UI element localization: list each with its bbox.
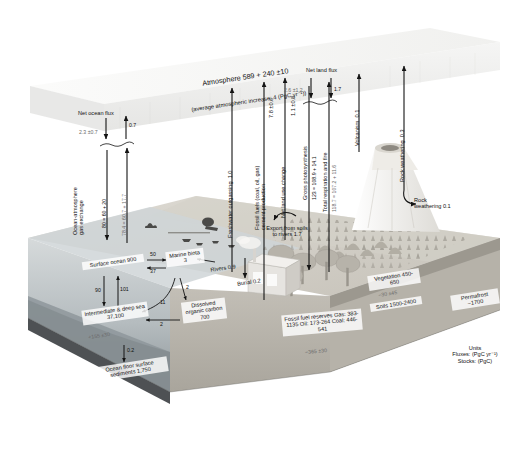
export-soils-to-rivers-box: Export from soils to rivers 1.7 bbox=[262, 224, 312, 239]
net-ocean-flux-down-value: 2.3 ±0.7 bbox=[79, 130, 98, 136]
net-land-flux-up-value: 1.7 bbox=[334, 87, 341, 93]
freshwater-outgassing-label: Freshwater outgassing 1.0 bbox=[227, 171, 233, 238]
deep-to-surface-value: 101 bbox=[120, 287, 129, 293]
biota-to-surface-value: 37 bbox=[150, 269, 156, 275]
volcanism-label: Volcanism 0.1 bbox=[354, 110, 360, 146]
fossil-fuels-label: Fossil fuels (coal, oil, gas) cement pro… bbox=[254, 166, 267, 230]
units-stocks: Stocks: (PgC) bbox=[442, 358, 508, 364]
units-box: Units Fluxes: (PgC yr⁻¹) Stocks: (PgC) bbox=[440, 344, 510, 365]
gas-exchange-label: Ocean-atmosphere gas exchange bbox=[72, 187, 85, 235]
deep-to-sediments-value: 0.2 bbox=[127, 348, 134, 354]
surface-to-deep-value: 90 bbox=[95, 288, 101, 294]
total-respiration-label: Total respiration and fire bbox=[322, 152, 328, 212]
net-land-use-change-label: Net land use change bbox=[280, 167, 286, 218]
carbon-cycle-figure: Atmosphere 589 + 240 ±10 (average atmosp… bbox=[0, 0, 521, 455]
net-land-use-change-value: 1.1 ±0.8 bbox=[290, 96, 296, 116]
net-ocean-flux-label: Net ocean flux bbox=[78, 110, 114, 116]
rock-weathering-top-label: Rock weathering 0.3 bbox=[399, 129, 405, 182]
gas-exchange-up-value: 78.4 = 60.7 + 17.7 bbox=[122, 194, 128, 236]
biota-to-doc-value: 2 bbox=[186, 285, 189, 291]
volcano bbox=[352, 143, 440, 232]
gross-photosynthesis-value: 123 = 108.9 + 14.1 bbox=[312, 156, 318, 200]
biota-to-deep-value: 11 bbox=[160, 300, 165, 306]
net-land-flux-down-value: 2.6 ±1.2 bbox=[284, 88, 303, 94]
net-ocean-flux-up-value: 0.7 bbox=[129, 123, 136, 129]
fossil-fuels-value: 7.8 ±0.6 bbox=[268, 98, 274, 118]
surface-to-biota-value: 50 bbox=[150, 252, 156, 258]
net-land-flux-label: Net land flux bbox=[306, 67, 337, 73]
gross-photosynthesis-label: Gross photosynthesis bbox=[302, 146, 308, 200]
doc-to-deep-value: 2 bbox=[160, 322, 163, 328]
total-respiration-value: 118.7 = 107.2 + 11.6 bbox=[332, 165, 338, 212]
gas-exchange-down-value: 80 = 60 + 20 bbox=[102, 199, 108, 228]
rock-weathering-land-box: Rock weathering 0.1 bbox=[412, 196, 454, 211]
